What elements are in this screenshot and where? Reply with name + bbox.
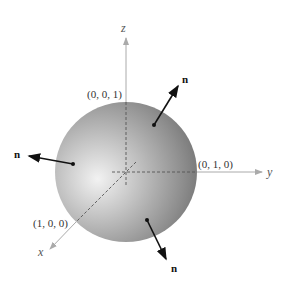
point-label-010: (0, 1, 0) [198, 158, 233, 171]
y-axis-label: y [266, 165, 273, 179]
point-label-001: (0, 0, 1) [87, 88, 122, 101]
normal-label: n [182, 73, 188, 85]
point-label-100: (1, 0, 0) [33, 217, 68, 230]
x-axis-label: x [37, 245, 44, 259]
z-axis-label: z [120, 21, 126, 35]
sphere-normals-diagram: z y x (0, 0, 1) (0, 1, 0) (1, 0, 0) n n … [0, 0, 287, 289]
normal-label: n [14, 148, 20, 160]
normal-label: n [171, 262, 177, 274]
